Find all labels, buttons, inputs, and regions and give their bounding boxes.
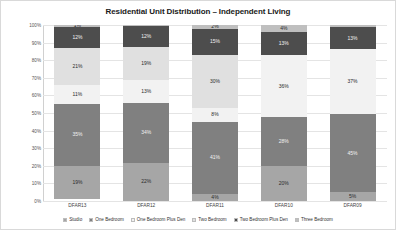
y-axis-tick: 60% xyxy=(7,93,41,98)
bar-column[interactable]: 4%13%36%28%20% xyxy=(249,25,318,201)
bar-segment[interactable]: 19% xyxy=(123,47,169,80)
bar-segment[interactable]: 41% xyxy=(192,122,238,194)
bar-segment-value-label: 41% xyxy=(210,155,220,160)
legend-swatch-icon xyxy=(234,218,238,222)
y-axis-tick: 30% xyxy=(7,146,41,151)
legend-item[interactable]: Three Bedroom xyxy=(295,217,333,222)
bar-segment[interactable]: 36% xyxy=(261,55,307,118)
bar-column[interactable]: 2%15%30%8%41%4% xyxy=(181,25,250,201)
legend-label: One Bedroom xyxy=(95,217,124,222)
x-axis-tick-labels: DFAR13DFAR12DFAR11DFAR10DFAR09 xyxy=(43,203,387,208)
bar-segment-value-label: 12% xyxy=(141,34,151,39)
bar-segment-value-label: 30% xyxy=(210,79,220,84)
bar-stack: 4%13%36%28%20% xyxy=(261,25,307,201)
bar-stack: 0.7%12%19%13%34%22% xyxy=(123,25,169,201)
y-axis-tick: 50% xyxy=(7,111,41,116)
y-axis-tick: 0% xyxy=(7,199,41,204)
y-axis-tick: 90% xyxy=(7,40,41,45)
legend-swatch-icon xyxy=(295,218,299,222)
bar-segment[interactable]: 4% xyxy=(192,194,238,201)
y-axis-tick: 20% xyxy=(7,163,41,168)
legend-label: One Bedroom Plus Den xyxy=(137,217,186,222)
bar-segment[interactable]: 13% xyxy=(123,80,169,103)
bar-segment[interactable]: 12% xyxy=(54,27,100,48)
legend-item[interactable]: Two Bedroom Plus Den xyxy=(234,217,288,222)
bar-segment[interactable]: 8% xyxy=(192,108,238,122)
y-axis-tick: 10% xyxy=(7,181,41,186)
bar-stack: 1%12%21%11%35%19% xyxy=(54,25,100,201)
bar-segment-value-label: 37% xyxy=(348,79,358,84)
bar-segment[interactable]: 34% xyxy=(123,103,169,162)
bar-segment-value-label: 36% xyxy=(279,84,289,89)
bar-segment[interactable]: 15% xyxy=(192,29,238,55)
x-axis-tick: DFAR13 xyxy=(43,203,112,208)
chart-container: Residential Unit Distribution – Independ… xyxy=(0,0,396,230)
bar-segment-value-label: 11% xyxy=(73,92,83,97)
bar-segment-value-label: 21% xyxy=(72,64,82,69)
legend-label: Studio xyxy=(69,217,82,222)
x-axis-tick: DFAR11 xyxy=(181,203,250,208)
legend-item[interactable]: Two Bedroom xyxy=(192,217,226,222)
bar-column[interactable]: 1%12%21%11%35%19% xyxy=(43,25,112,201)
x-axis-tick: DFAR12 xyxy=(112,203,181,208)
legend-item[interactable]: One Bedroom Plus Den xyxy=(131,217,186,222)
bar-segment[interactable]: 22% xyxy=(123,163,169,201)
bar-segment[interactable]: 4% xyxy=(261,25,307,32)
bar-segment-value-label: 4% xyxy=(211,195,218,200)
bar-segment-value-label: 35% xyxy=(72,132,82,137)
legend-swatch-icon xyxy=(192,218,196,222)
bar-segment[interactable]: 11% xyxy=(54,85,100,104)
legend-label: Two Bedroom xyxy=(198,217,226,222)
bar-segment-value-label: 15% xyxy=(210,39,220,44)
bar-segment[interactable]: 5% xyxy=(330,192,376,201)
legend-item[interactable]: Studio xyxy=(63,217,82,222)
bar-column[interactable]: 0.7%12%19%13%34%22% xyxy=(112,25,181,201)
bar-segment[interactable]: 21% xyxy=(54,48,100,85)
bar-segment[interactable]: 45% xyxy=(330,114,376,192)
legend-item[interactable]: One Bedroom xyxy=(89,217,124,222)
bar-segment-value-label: 13% xyxy=(279,41,289,46)
bar-column[interactable]: 1%13%37%45%5% xyxy=(318,25,387,201)
bar-segment[interactable]: 35% xyxy=(54,104,100,166)
bar-segment-value-label: 4% xyxy=(280,26,287,31)
chart-legend: StudioOne BedroomOne Bedroom Plus DenTwo… xyxy=(1,217,395,222)
bar-segment[interactable]: 13% xyxy=(261,32,307,55)
chart-title: Residential Unit Distribution – Independ… xyxy=(1,7,395,16)
bar-segment-value-label: 20% xyxy=(279,181,289,186)
bar-segment[interactable]: 13% xyxy=(330,27,376,50)
bar-segment-value-label: 13% xyxy=(348,36,358,41)
bar-segment-value-label: 19% xyxy=(141,61,151,66)
bar-segment-value-label: 8% xyxy=(211,112,218,117)
bar-series-group: 1%12%21%11%35%19%0.7%12%19%13%34%22%2%15… xyxy=(43,25,387,201)
bar-stack: 1%13%37%45%5% xyxy=(330,25,376,201)
bar-segment-value-label: 22% xyxy=(141,179,151,184)
bar-segment-value-label: 13% xyxy=(141,89,151,94)
legend-swatch-icon xyxy=(89,218,93,222)
bar-stack: 2%15%30%8%41%4% xyxy=(192,25,238,201)
bar-segment[interactable]: 12% xyxy=(123,26,169,47)
bar-segment-value-label: 28% xyxy=(279,139,289,144)
y-axis-tick: 80% xyxy=(7,58,41,63)
gridline xyxy=(43,201,387,202)
legend-swatch-icon xyxy=(131,218,135,222)
bar-segment[interactable]: 20% xyxy=(261,166,307,201)
bar-segment-value-label: 34% xyxy=(141,130,151,135)
plot-area: 0%10%20%30%40%50%60%70%80%90%100% 1%12%2… xyxy=(43,25,387,201)
x-axis-tick: DFAR09 xyxy=(318,203,387,208)
y-axis-tick: 70% xyxy=(7,75,41,80)
bar-segment-value-label: 19% xyxy=(72,180,82,185)
bar-segment[interactable]: 30% xyxy=(192,55,238,108)
bar-segment-value-label: 12% xyxy=(72,35,82,40)
bar-segment-value-label: 5% xyxy=(349,194,356,199)
x-axis-tick: DFAR10 xyxy=(249,203,318,208)
bar-segment[interactable]: 37% xyxy=(330,49,376,113)
bar-segment[interactable]: 19% xyxy=(54,166,100,199)
legend-label: Three Bedroom xyxy=(301,217,333,222)
bar-segment[interactable]: 28% xyxy=(261,117,307,166)
bar-segment-value-label: 45% xyxy=(348,151,358,156)
y-axis-tick: 100% xyxy=(7,23,41,28)
y-axis-tick: 40% xyxy=(7,128,41,133)
legend-label: Two Bedroom Plus Den xyxy=(240,217,288,222)
legend-swatch-icon xyxy=(63,218,67,222)
